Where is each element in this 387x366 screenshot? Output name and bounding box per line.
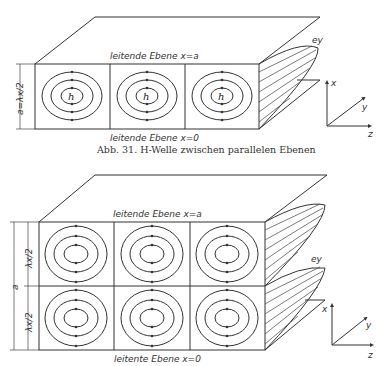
cell-label: h	[68, 91, 74, 102]
bottom-plane-label: leitente Ebene x=0	[114, 354, 201, 364]
cell-label: h	[218, 91, 224, 102]
svg-text:z: z	[367, 129, 373, 139]
height-label: a=λx/2	[15, 82, 25, 115]
svg-text:x: x	[321, 304, 328, 314]
diagram-canvas: h h h ey leitende Ebene x=a leitende Ebe…	[0, 0, 387, 366]
field-label: ey	[311, 254, 323, 264]
field-label: ey	[312, 35, 324, 45]
top-plane-label: leitende Ebene x=a	[113, 209, 202, 219]
figure-1: h h h ey leitende Ebene x=a leitende Ebe…	[15, 17, 373, 155]
axes-1: x y z	[327, 78, 373, 139]
bottom-plane-label: leitende Ebene x=0	[110, 133, 199, 143]
half-label-lower: λx/2	[24, 312, 34, 333]
svg-text:y: y	[361, 102, 368, 112]
figure-2: ey leitende Ebene x=a leitente Ebene x=0…	[10, 175, 373, 364]
cell-label: h	[143, 91, 149, 102]
svg-text:y: y	[365, 320, 372, 330]
half-label-upper: λx/2	[24, 248, 34, 269]
figure-caption: Abb. 31. H-Welle zwischen parallelen Ebe…	[96, 144, 316, 155]
svg-text:x: x	[330, 78, 337, 88]
axes-2: x y z	[321, 304, 373, 360]
top-plane-label: leitende Ebene x=a	[110, 51, 199, 61]
svg-text:z: z	[367, 350, 373, 360]
height-label: a	[10, 284, 20, 290]
